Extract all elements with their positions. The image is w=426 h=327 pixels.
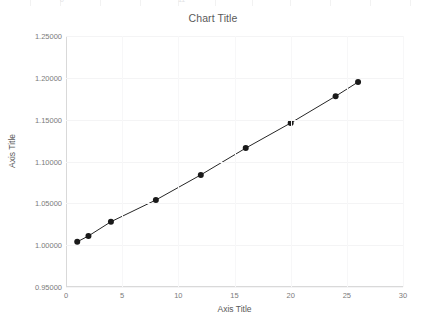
x-axis-tick-label: 0 bbox=[64, 291, 68, 300]
vertical-gridline bbox=[235, 36, 236, 287]
x-axis-title: Axis Title bbox=[66, 304, 403, 314]
y-axis-tick-label: 1.20000 bbox=[0, 73, 62, 82]
x-axis-tick-label: 5 bbox=[120, 291, 124, 300]
chart-container[interactable]: Chart Title 0.950001.000001.050001.10000… bbox=[0, 6, 426, 327]
y-axis-tick-label: 1.00000 bbox=[0, 241, 62, 250]
data-point-marker[interactable] bbox=[85, 233, 91, 239]
vertical-gridline bbox=[122, 36, 123, 287]
horizontal-gridline bbox=[66, 287, 403, 288]
vertical-gridline bbox=[291, 36, 292, 287]
plot-area[interactable] bbox=[66, 36, 403, 287]
x-axis-tick-label: 15 bbox=[230, 291, 238, 300]
y-axis-tick-label: 0.95000 bbox=[0, 283, 62, 292]
y-axis-title: Axis Title bbox=[7, 111, 17, 191]
spreadsheet-cell-text: 11 bbox=[178, 0, 185, 3]
data-point-marker[interactable] bbox=[243, 145, 249, 151]
vertical-gridline bbox=[403, 36, 404, 287]
x-axis-tick-labels: 051015202530 bbox=[66, 291, 403, 303]
spreadsheet-cell-text: 0 bbox=[60, 0, 64, 3]
data-point-marker[interactable] bbox=[74, 239, 80, 245]
data-point-marker[interactable] bbox=[108, 219, 114, 225]
vertical-gridline bbox=[347, 36, 348, 287]
y-axis-tick-label: 1.25000 bbox=[0, 32, 62, 41]
x-axis-tick-label: 20 bbox=[286, 291, 294, 300]
data-point-marker[interactable] bbox=[333, 93, 339, 99]
x-axis-tick-label: 30 bbox=[399, 291, 407, 300]
y-axis-tick-label: 1.05000 bbox=[0, 199, 62, 208]
data-point-marker[interactable] bbox=[355, 79, 361, 85]
vertical-gridline bbox=[178, 36, 179, 287]
data-point-marker[interactable] bbox=[198, 172, 204, 178]
data-point-marker[interactable] bbox=[153, 197, 159, 203]
chart-title: Chart Title bbox=[0, 12, 426, 24]
x-axis-tick-label: 10 bbox=[174, 291, 182, 300]
x-axis-tick-label: 25 bbox=[343, 291, 351, 300]
